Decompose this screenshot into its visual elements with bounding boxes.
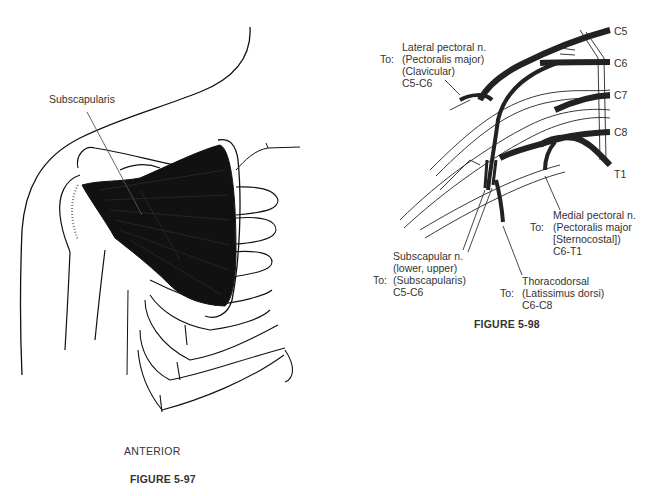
to-prefix: To: xyxy=(373,274,387,286)
nerve-roots: C6-C8 xyxy=(522,299,552,312)
arm-line xyxy=(65,252,70,350)
root-label-c6: C6 xyxy=(614,57,627,70)
nerve-target: (Pectoralis major) xyxy=(402,53,484,66)
nerve-target: (Clavicular) xyxy=(402,65,455,78)
to-prefix: To: xyxy=(530,221,544,233)
humerus-stipple xyxy=(72,185,78,240)
nerve-name: Subscapular n. xyxy=(393,250,463,263)
root-label-c7: C7 xyxy=(614,89,627,102)
root-c7 xyxy=(555,95,610,110)
root-c6 xyxy=(540,62,610,63)
nerve-name: Lateral pectoral n. xyxy=(402,41,486,54)
coracoid xyxy=(120,165,160,170)
nerve-roots: C5-C6 xyxy=(393,286,423,299)
nerve-name: Thoracodorsal xyxy=(522,275,589,288)
acromion xyxy=(77,147,175,168)
subscapularis-label: Subscapularis xyxy=(49,93,115,106)
nerve-subtitle: (lower, upper) xyxy=(393,262,457,275)
nerve-target: (Latissimus dorsi) xyxy=(522,287,604,300)
nerve-roots: C6-T1 xyxy=(553,245,582,258)
root-label-c8: C8 xyxy=(614,126,627,139)
nerve-target: (Subscapularis) xyxy=(393,274,466,287)
root-label-t1: T1 xyxy=(614,168,626,181)
humerus-head xyxy=(60,175,80,252)
to-prefix: To: xyxy=(380,53,394,65)
arm-line xyxy=(95,250,105,340)
to-prefix: To: xyxy=(500,287,514,299)
medial-pectoral-nerve xyxy=(545,142,555,170)
nerve-target: (Pectoralis major xyxy=(553,221,632,234)
anterior-view-label: ANTERIOR xyxy=(124,445,181,457)
subscapularis-muscle xyxy=(82,145,236,306)
nerve-roots: C5-C6 xyxy=(402,77,432,90)
nerve-name: Medial pectoral n. xyxy=(553,209,636,222)
spine-line xyxy=(127,290,128,375)
figure-5-97-caption: FIGURE 5-97 xyxy=(130,473,196,485)
root-label-c5: C5 xyxy=(614,25,627,38)
lateral-pectoral-nerve xyxy=(460,95,492,100)
nerve-target: [Sternocostal]) xyxy=(553,233,621,246)
nerve-branch xyxy=(236,147,300,170)
figure-5-98-caption: FIGURE 5-98 xyxy=(474,318,540,330)
